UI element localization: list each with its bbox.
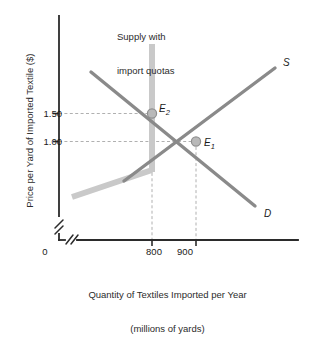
equilibrium-label-e1-subscript: 1 [211,142,215,151]
supply-curve-label: S [283,57,290,69]
y-tick-label-150: 1.50 [32,108,62,119]
axis-lines [59,16,298,240]
annotation-supply-with-import-quotas: Supply with import quotas [117,9,175,99]
equilibrium-label-e1-base: E [204,137,211,148]
annotation-line-1: Supply with [117,31,175,42]
y-tick-label-100: 1.00 [32,136,62,147]
equilibrium-label-e2-subscript: 2 [166,108,170,117]
x-tick-label-900: 900 [168,246,202,257]
annotation-line-2: import quotas [117,65,175,76]
demand-curve-label: D [264,208,271,220]
y-axis-title: Price per Yard of Imported Textile ($) [24,36,35,226]
x-axis-title-line-1: Quantity of Textiles Imported per Year [55,289,280,300]
equilibrium-label-e2-base: E [159,103,166,114]
equilibrium-label-e1: E1 [204,137,215,152]
quota-supply-rising-segment [72,170,152,197]
equilibrium-marker-e1 [191,137,200,146]
x-axis-title-line-2: (millions of yards) [55,323,280,334]
x-axis-title: Quantity of Textiles Imported per Year (… [55,267,280,338]
equilibrium-label-e2: E2 [159,103,170,118]
equilibrium-marker-e2 [147,109,156,118]
origin-label: 0 [38,246,52,257]
x-tick-label-800: 800 [137,246,171,257]
